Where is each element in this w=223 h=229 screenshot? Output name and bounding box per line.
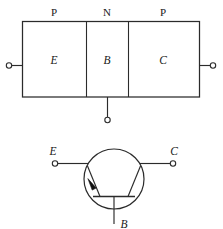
collector-slant-line [128,166,141,197]
region-label-collector: C [159,54,167,66]
structure-collector-node [210,63,215,68]
doping-label-p-collector: P [160,6,166,18]
region-label-base: B [103,54,110,66]
structure-outer-box [23,22,200,98]
pnp-transistor-figure: P N P E B C [0,0,223,229]
symbol-collector-node [170,161,175,166]
figure-root: P N P E B C [0,0,223,229]
doping-label-n-base: N [103,6,111,18]
doping-label-p-emitter: P [51,6,57,18]
symbol-label-base: B [120,218,127,229]
structure-base-node [105,117,110,122]
symbol-emitter-node [52,161,57,166]
symbol-label-emitter: E [48,145,56,157]
region-label-emitter: E [49,54,57,66]
pnp-layer-structure: P N P E B C [6,6,215,123]
pnp-transistor-symbol: E C B [48,145,178,229]
structure-emitter-node [6,63,11,68]
symbol-label-collector: C [170,145,178,157]
